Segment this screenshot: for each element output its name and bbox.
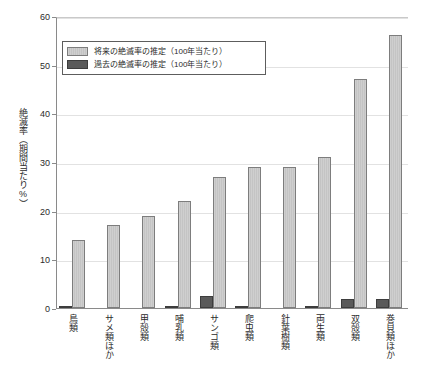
bar-future xyxy=(142,216,155,308)
y-tick-label: 20 xyxy=(28,208,50,217)
x-tick-label: 巻貝類ほか xyxy=(373,314,408,362)
bar-future xyxy=(213,177,226,308)
y-tick-mark xyxy=(52,309,56,310)
x-tick-label-text: 哺乳類 xyxy=(174,314,185,341)
x-tick-label: 甲殻類 xyxy=(126,314,161,344)
bar-future xyxy=(72,240,85,308)
bar-past xyxy=(59,306,72,308)
bar-group xyxy=(374,18,409,308)
x-tick-label: 双殻類 xyxy=(338,314,373,344)
legend-item-future: 将来の絶滅率の推定（100年当たり） xyxy=(67,45,261,58)
bar-group xyxy=(268,18,303,308)
x-tick-label-text: 巻貝類ほか xyxy=(385,314,396,359)
y-tick-label: 30 xyxy=(28,159,50,168)
legend-label-past: 過去の絶滅率の推定（100年当たり） xyxy=(94,60,227,69)
x-tick-label: サンゴ類 xyxy=(197,314,232,353)
x-tick-label-text: 爬虫類 xyxy=(244,314,255,341)
x-tick-label: 針葉樹類 xyxy=(267,314,302,353)
y-tick-label: 10 xyxy=(28,256,50,265)
x-tick-label-text: 鳥類 xyxy=(68,314,79,332)
x-tick-label-text: 針葉樹類 xyxy=(280,314,291,350)
bar-future xyxy=(107,225,120,308)
bar-group xyxy=(303,18,338,308)
y-tick-label: 60 xyxy=(28,13,50,22)
bar-future xyxy=(318,157,331,308)
y-tick-label: 40 xyxy=(28,110,50,119)
x-tick-label-text: 両生類 xyxy=(315,314,326,341)
bar-future xyxy=(389,35,402,308)
x-tick-label-text: サンゴ類 xyxy=(209,314,220,350)
bar-chart: 絶滅率（期間当たり%） 0102030405060 鳥類サメ類ほか甲殻類哺乳類サ… xyxy=(0,0,422,381)
x-tick-label: サメ類ほか xyxy=(91,314,126,362)
x-tick-label: 鳥類 xyxy=(56,314,91,335)
x-tick-label-text: サメ類ほか xyxy=(104,314,115,359)
bar-future xyxy=(354,79,367,308)
x-tick-label: 両生類 xyxy=(302,314,337,344)
bar-past xyxy=(305,306,318,308)
legend-swatch-past-icon xyxy=(67,60,88,69)
y-tick-label: 0 xyxy=(28,305,50,314)
y-tick-label: 50 xyxy=(28,62,50,71)
x-tick-label-text: 双殻類 xyxy=(350,314,361,341)
bar-past xyxy=(200,296,213,308)
legend-swatch-future-icon xyxy=(67,47,88,56)
bar-future xyxy=(178,201,191,308)
bar-future xyxy=(248,167,261,308)
legend-label-future: 将来の絶滅率の推定（100年当たり） xyxy=(94,47,227,56)
x-tick-label-text: 甲殻類 xyxy=(139,314,150,341)
legend-item-past: 過去の絶滅率の推定（100年当たり） xyxy=(67,58,261,71)
chart-legend: 将来の絶滅率の推定（100年当たり） 過去の絶滅率の推定（100年当たり） xyxy=(62,41,266,75)
bar-past xyxy=(165,306,178,308)
bar-past xyxy=(341,299,354,308)
x-tick-label: 哺乳類 xyxy=(162,314,197,344)
bar-past xyxy=(376,299,389,308)
bar-future xyxy=(283,167,296,308)
bar-group xyxy=(339,18,374,308)
y-axis-title: 絶滅率（期間当たり%） xyxy=(14,108,28,208)
x-tick-label: 爬虫類 xyxy=(232,314,267,344)
bar-past xyxy=(235,306,248,308)
